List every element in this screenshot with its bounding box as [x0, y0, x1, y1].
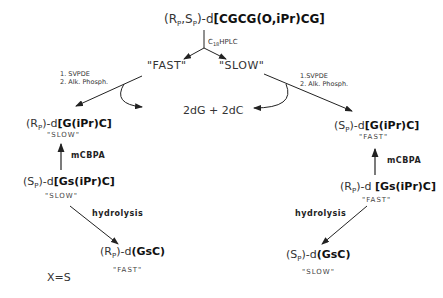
left-final-compound: (RP)-d(GsC): [100, 245, 165, 260]
hplc-label: C18HPLC: [208, 38, 238, 48]
right-reagents: 1.SVPDE2. Alk. Phosph.: [300, 72, 348, 88]
left-rp-compound: (RP)-d[G(iPr)C]: [26, 117, 112, 132]
footnote: X=S: [47, 271, 71, 284]
left-sp-gs-compound: (SP)-d[Gs(iPr)C]: [23, 175, 115, 190]
right-sp-label: "FAST": [359, 133, 388, 141]
slow-fraction-label: "SLOW": [219, 59, 264, 72]
left-rp-label: "SLOW": [47, 131, 80, 139]
left-sp-gs-label: "SLOW": [45, 192, 78, 200]
starting-compound: (RP,SP)-d[CGCG(O,iPr)CG]: [164, 12, 325, 28]
left-mcbpa-label: mCBPA: [71, 151, 105, 160]
right-rp-gs-label: "FAST": [362, 196, 391, 204]
right-mcbpa-label: mCBPA: [387, 156, 421, 165]
left-hydrolysis-label: hydrolysis: [92, 209, 143, 218]
fast-fraction-label: "FAST": [147, 59, 187, 72]
left-final-label: "FAST": [113, 266, 142, 274]
right-sp-compound: (SP)-d[G(iPr)C]: [334, 119, 419, 134]
center-product: 2dG + 2dC: [183, 104, 243, 117]
right-final-label: "SLOW": [302, 268, 335, 276]
right-hydrolysis-label: hydrolysis: [295, 209, 346, 218]
left-reagents: 1. SVPDE2. Alk. Phosph.: [60, 70, 108, 86]
right-final-compound: (SP)-d(GsC): [286, 248, 350, 263]
right-rp-gs-compound: (RP)-d [Gs(iPr)C]: [340, 180, 436, 195]
